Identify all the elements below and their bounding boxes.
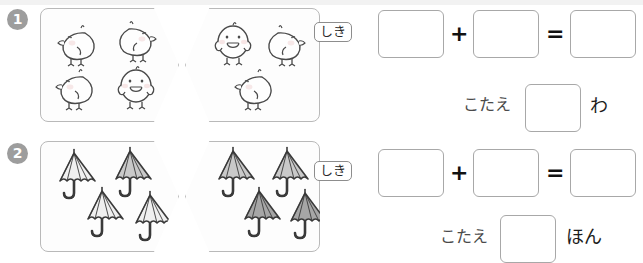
picture-panel-right-1 (185, 8, 320, 122)
chick-icon (262, 23, 308, 69)
equals-operator-2: = (546, 162, 564, 184)
chick-icon (53, 67, 99, 113)
shiki-label-2: しき (314, 161, 352, 181)
umbrella-icon (79, 186, 125, 240)
chick-icon (113, 19, 159, 65)
equation-box-addend2-1[interactable] (473, 10, 539, 58)
picture-panel-left-2 (40, 141, 179, 252)
plus-operator-1: + (450, 23, 468, 45)
picture-panel-right-2 (185, 141, 320, 252)
problem-number-badge-1: 1 (7, 9, 28, 30)
equals-operator-1: = (546, 23, 564, 45)
equation-box-addend1-1[interactable] (378, 10, 444, 58)
umbrella-icon (127, 190, 173, 244)
unit-counter-label-2: ほん (566, 227, 602, 247)
equation-box-addend2-2[interactable] (473, 149, 539, 197)
equation-box-sum-1[interactable] (570, 10, 636, 58)
kotae-label-2: こたえ (440, 228, 488, 246)
umbrella-icon (282, 188, 328, 242)
umbrella-icon (236, 186, 282, 240)
chick-icon (115, 65, 157, 111)
chick-icon (212, 21, 254, 67)
shiki-label-1: しき (314, 22, 352, 42)
equation-box-sum-2[interactable] (570, 149, 636, 197)
problem-row-2: 2 (0, 125, 643, 250)
kotae-answer-box-2[interactable] (500, 215, 556, 263)
unit-counter-label-1: わ (590, 96, 608, 116)
problem-number-badge-2: 2 (7, 143, 28, 164)
problem-row-1: 1 (0, 0, 643, 125)
picture-panel-left-1 (40, 8, 179, 122)
kotae-label-1: こたえ (463, 96, 511, 114)
chick-icon (55, 23, 101, 69)
equation-box-addend1-2[interactable] (378, 149, 444, 197)
chick-icon (232, 67, 278, 113)
plus-operator-2: + (450, 162, 468, 184)
